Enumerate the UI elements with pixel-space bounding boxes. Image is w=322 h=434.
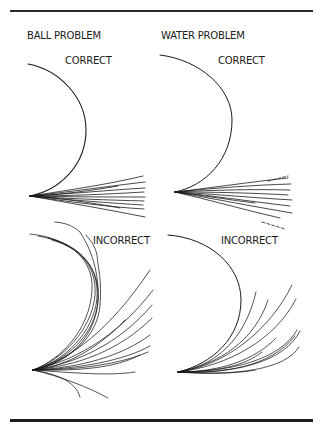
trajectory-fan: [30, 176, 145, 217]
trajectory-fan: [175, 178, 292, 218]
correct-arc-path: [28, 64, 86, 196]
correct-arc-path: [160, 55, 232, 192]
trajectory-line: [175, 192, 292, 213]
trajectory-line: [33, 238, 97, 370]
trajectory-line: [33, 318, 152, 370]
trajectory-fan: [178, 285, 300, 373]
trajectory-line: [175, 192, 280, 218]
panel-ball-incorrect: [30, 222, 153, 398]
trajectory-line: [33, 370, 108, 398]
trajectory-line: [30, 234, 92, 370]
bottom-rule: [10, 419, 313, 422]
dashed-trajectory: [262, 222, 285, 229]
trajectory-figure: [0, 0, 322, 434]
trajectory-fan: [30, 222, 153, 398]
panel-ball-correct: [28, 64, 145, 217]
panel-water-correct: [160, 55, 292, 218]
trajectory-line: [33, 290, 153, 370]
correct-arc-path: [168, 235, 241, 372]
trajectory-line: [33, 370, 80, 397]
trajectory-line: [175, 192, 255, 203]
panel-water-incorrect: [168, 222, 300, 373]
